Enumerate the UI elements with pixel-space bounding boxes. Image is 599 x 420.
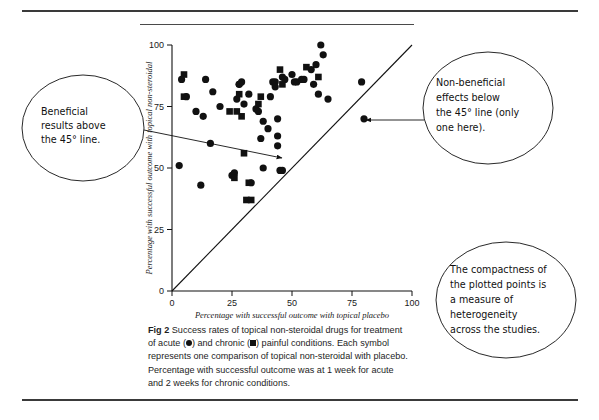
y-tick-label-50: 50 xyxy=(154,163,164,173)
data-point-chronic xyxy=(231,175,238,182)
data-point-acute xyxy=(216,103,223,110)
data-point-acute xyxy=(197,182,204,189)
data-point-acute xyxy=(300,76,307,83)
callout-compactness-line-0: The compactness of xyxy=(449,264,547,275)
data-point-acute xyxy=(192,108,199,115)
data-point-acute xyxy=(255,108,262,115)
callout-compactness: The compactness of the plotted points is… xyxy=(436,242,576,358)
chronic-square-symbol-icon xyxy=(250,340,256,346)
data-point-chronic xyxy=(255,101,262,108)
data-point-acute xyxy=(324,96,331,103)
callout-compactness-line-2: a measure of xyxy=(450,294,514,305)
figure-label: Fig 2 xyxy=(148,325,169,335)
data-point-acute xyxy=(312,61,319,68)
data-point-acute xyxy=(257,135,264,142)
x-tick-label-25: 25 xyxy=(227,298,237,308)
callout-nonbeneficial-line-0: Non-beneficial xyxy=(436,77,505,88)
data-point-acute xyxy=(310,81,317,88)
data-point-chronic xyxy=(226,108,233,115)
data-point-chronic xyxy=(238,113,245,120)
figure-caption: Fig 2 Success rates of topical non-stero… xyxy=(148,324,410,390)
callout-beneficial-line-0: Beneficial xyxy=(41,106,88,117)
y-tick-label-25: 25 xyxy=(154,225,164,235)
callout-beneficial-line-1: results above xyxy=(41,120,106,131)
x-axis-title: Percentage with successful outcome with … xyxy=(194,310,389,320)
caption-text-part2: ) and chronic ( xyxy=(192,338,250,348)
data-point-acute xyxy=(279,167,286,174)
data-point-acute xyxy=(360,115,367,122)
data-point-chronic xyxy=(181,71,188,78)
y-tick-label-75: 75 xyxy=(154,102,164,112)
data-point-acute xyxy=(238,78,245,85)
y-tick-label-0: 0 xyxy=(159,286,164,296)
callout-nonbeneficial-line-3: one here). xyxy=(436,122,485,133)
data-point-acute xyxy=(264,125,271,132)
x-axis-ticks: 0255075100 xyxy=(169,291,419,308)
callout-nonbeneficial-line-2: the 45° line (only xyxy=(436,107,520,118)
x-tick-label-75: 75 xyxy=(347,298,357,308)
data-point-acute xyxy=(260,118,267,125)
data-point-acute xyxy=(274,142,281,149)
y-tick-label-100: 100 xyxy=(149,40,164,50)
data-point-chronic xyxy=(315,74,322,81)
figure-page: 0255075100 0255075100 Percentage with su… xyxy=(0,0,599,420)
data-point-acute xyxy=(320,51,327,58)
callout-compactness-line-1: the plotted points is xyxy=(450,279,546,290)
data-point-chronic xyxy=(246,179,253,186)
x-tick-label-0: 0 xyxy=(169,298,174,308)
data-point-chronic xyxy=(303,64,310,71)
data-point-chronic xyxy=(279,81,286,88)
data-point-acute xyxy=(209,88,216,95)
data-point-acute xyxy=(274,115,281,122)
data-point-acute xyxy=(274,132,281,139)
data-point-acute xyxy=(200,113,207,120)
callout-beneficial-leader-line xyxy=(144,130,282,158)
data-point-chronic xyxy=(258,93,265,100)
data-point-acute xyxy=(245,91,252,98)
data-point-acute xyxy=(272,83,279,90)
data-point-acute xyxy=(315,91,322,98)
data-point-acute xyxy=(240,100,247,107)
acute-circle-symbol-icon xyxy=(186,340,192,346)
callout-beneficial-line-2: the 45° line. xyxy=(41,134,100,145)
callout-non-beneficial: Non-beneficial effects below the 45° lin… xyxy=(366,52,553,164)
data-point-acute xyxy=(260,164,267,171)
data-point-chronic xyxy=(277,66,284,73)
data-point-acute xyxy=(288,71,295,78)
data-point-chronic xyxy=(236,91,243,98)
callout-compactness-line-4: across the studies. xyxy=(450,324,540,335)
data-point-acute xyxy=(317,41,324,48)
x-tick-label-50: 50 xyxy=(287,298,297,308)
data-point-chronic xyxy=(248,197,255,204)
data-points-acute xyxy=(176,41,368,188)
data-point-chronic xyxy=(181,93,188,100)
data-point-acute xyxy=(202,76,209,83)
y-axis-title: Percentage with successful outcome with … xyxy=(144,61,154,275)
callout-nonbeneficial-line-1: effects below xyxy=(436,92,500,103)
data-point-acute xyxy=(358,78,365,85)
callout-compactness-line-3: heterogeneity xyxy=(450,309,518,320)
x-tick-label-100: 100 xyxy=(404,298,419,308)
data-point-acute xyxy=(176,162,183,169)
data-point-acute xyxy=(267,93,274,100)
